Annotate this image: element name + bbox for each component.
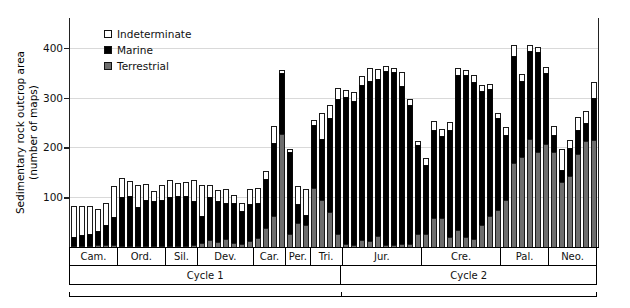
period-cell-jur: Jur. <box>343 248 422 265</box>
bottom-rule <box>69 292 597 298</box>
bar-segment-mar <box>551 135 558 153</box>
bar <box>535 47 542 247</box>
bar <box>367 68 374 247</box>
bar-segment-ind <box>135 185 142 207</box>
bar-segment-terr <box>439 218 446 247</box>
bar <box>207 185 214 247</box>
cycle-cell-cycle-2: Cycle 2 <box>341 266 596 284</box>
bar <box>151 191 158 247</box>
bar <box>183 182 190 247</box>
period-cell-ord: Ord. <box>118 248 166 265</box>
period-cell-dev: Dev. <box>198 248 254 265</box>
bar-segment-mar <box>391 72 398 244</box>
bar-segment-mar <box>175 196 182 246</box>
bar-segment-ind <box>127 181 134 196</box>
bar <box>239 203 246 247</box>
bar-segment-ind <box>223 189 230 203</box>
bar-segment-ind <box>103 203 110 225</box>
bar <box>447 122 454 247</box>
bar-segment-mar <box>191 201 198 245</box>
legend-swatch-indeterminate-icon <box>104 30 112 38</box>
bottom-rule-cap-mid <box>341 292 342 297</box>
bar-segment-mar <box>255 203 262 238</box>
bar-segment-ind <box>567 140 574 148</box>
bar <box>279 70 286 247</box>
bar-segment-ind <box>263 171 270 179</box>
bar-segment-mar <box>335 99 342 234</box>
bar <box>495 113 502 247</box>
bar <box>471 75 478 247</box>
bar-segment-mar <box>519 81 526 158</box>
bar-segment-ind <box>215 190 222 201</box>
bar <box>311 120 318 247</box>
bar <box>327 105 334 247</box>
bar <box>335 88 342 247</box>
legend-label-indeterminate: Indeterminate <box>117 28 191 40</box>
bar-segment-terr <box>447 237 454 247</box>
bar-segment-ind <box>143 184 150 200</box>
bar-segment-ind <box>95 209 102 231</box>
bar <box>359 76 366 247</box>
bar <box>511 45 518 247</box>
bar-segment-terr <box>583 141 590 247</box>
bar <box>319 113 326 247</box>
bar-segment-terr <box>471 239 478 247</box>
bar-segment-mar <box>303 215 310 225</box>
bar <box>351 92 358 247</box>
bar-segment-terr <box>455 230 462 247</box>
bar-segment-terr <box>279 134 286 248</box>
bar-segment-terr <box>487 216 494 247</box>
bar-segment-mar <box>159 200 166 246</box>
bar <box>383 66 390 247</box>
bar-segment-mar <box>367 81 374 241</box>
bar-segment-ind <box>183 182 190 196</box>
bar-segment-terr <box>463 237 470 247</box>
bar-segment-mar <box>135 207 142 246</box>
bar-segment-terr <box>495 210 502 247</box>
bar <box>503 127 510 247</box>
bar-segment-mar <box>143 200 150 246</box>
bar-segment-mar <box>527 51 534 140</box>
bar <box>567 140 574 247</box>
legend-swatch-marine-icon <box>104 46 112 54</box>
bar <box>591 82 598 247</box>
bar-segment-ind <box>559 149 566 170</box>
bar-segment-terr <box>319 200 326 247</box>
bar-segment-terr <box>375 236 382 247</box>
bar-segment-mar <box>575 130 582 155</box>
bar-segment-mar <box>263 179 270 228</box>
bar <box>295 186 302 247</box>
bar-segment-mar <box>215 201 222 242</box>
bar-segment-ind <box>239 203 246 211</box>
legend-item-indeterminate: Indeterminate <box>104 26 191 41</box>
bar-segment-terr <box>287 234 294 247</box>
legend-label-terrestrial: Terrestrial <box>117 60 169 72</box>
bar-segment-mar <box>247 204 254 241</box>
bar <box>375 69 382 247</box>
bar <box>415 141 422 247</box>
bar <box>167 180 174 247</box>
bar-segment-terr <box>431 218 438 247</box>
period-cell-pal: Pal. <box>501 248 549 265</box>
bar-segment-ind <box>247 189 254 204</box>
bar-segment-ind <box>367 68 374 80</box>
bar <box>103 203 110 247</box>
bar-segment-terr <box>335 234 342 247</box>
bar <box>175 183 182 247</box>
bar-segment-ind <box>87 206 94 233</box>
period-cell-sil: Sil. <box>166 248 198 265</box>
bar-segment-mar <box>231 203 238 243</box>
bar <box>271 126 278 247</box>
bar <box>439 129 446 247</box>
bar-segment-mar <box>511 56 518 164</box>
bar <box>455 68 462 247</box>
bar-segment-terr <box>543 144 550 247</box>
bar-segment-terr <box>223 239 230 247</box>
bar-segment-mar <box>287 152 294 234</box>
cycle-cell-cycle-1: Cycle 1 <box>70 266 341 284</box>
bar <box>87 206 94 247</box>
bar-segment-mar <box>319 139 326 201</box>
bar-segment-ind <box>79 206 86 234</box>
bar <box>287 149 294 247</box>
bar-segment-mar <box>71 237 78 246</box>
